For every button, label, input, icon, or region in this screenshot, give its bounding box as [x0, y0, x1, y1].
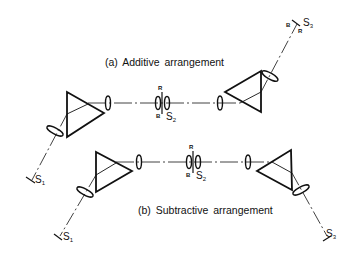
- prism-left-a: [67, 92, 104, 137]
- lens-tilted-left-b: [76, 185, 95, 199]
- label-s3-b: S3: [326, 229, 336, 240]
- beam-to-s3-a: [261, 24, 297, 92]
- beam-to-s3-b: [292, 173, 327, 236]
- prism-right-a: [225, 71, 261, 112]
- label-s2-b: S2: [196, 171, 206, 182]
- panel-a-additive: [26, 20, 300, 183]
- label-s2-a: S2: [166, 112, 176, 123]
- mark-r-center-a: R: [158, 85, 162, 91]
- beam-from-s1-a: [32, 114, 67, 180]
- optical-diagram: [0, 0, 362, 260]
- mark-b-s3-a: B: [286, 22, 290, 28]
- beam-from-s1-b: [60, 175, 96, 236]
- mark-r-s3-a: R: [298, 28, 302, 34]
- mark-b-center-b: B: [186, 172, 190, 178]
- lens-tilted-right-b: [292, 183, 311, 197]
- label-s1-a: S1: [35, 175, 45, 186]
- label-s1-b: S1: [63, 232, 73, 243]
- slit-s1-a: [26, 177, 35, 183]
- caption-subtractive: (b) Subtractive arrangement: [138, 205, 273, 216]
- caption-additive: (a) Additive arrangement: [105, 57, 224, 68]
- lens-tilted-right-a: [261, 69, 280, 83]
- mark-r-center-b: R: [189, 144, 193, 150]
- label-s3-a: S3: [303, 18, 313, 29]
- panel-b-subtractive: [54, 150, 331, 241]
- mark-b-center-a: B: [156, 113, 160, 119]
